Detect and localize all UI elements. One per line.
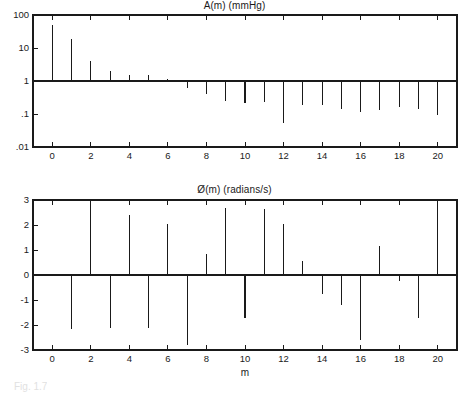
x-axis-tick-label: 10 [240, 353, 251, 364]
x-axis-tick-label: 18 [394, 353, 405, 364]
x-axis-tick-label: 20 [432, 353, 443, 364]
x-axis-tick-label: 16 [355, 353, 366, 364]
x-axis-tick-label: 0 [50, 150, 55, 161]
phase-plot-panel: Ø(m) (radians/s) 3210-1-2-30246810121416… [0, 182, 469, 393]
figure-caption: Fig. 1.7 [14, 381, 47, 393]
y-axis-tick-label: .1 [21, 108, 29, 119]
x-axis-tick-label: 8 [204, 150, 209, 161]
x-axis-tick-label: 0 [50, 353, 55, 364]
y-axis-tick-label: 1 [24, 244, 29, 255]
y-axis-tick-label: -3 [21, 344, 29, 355]
x-axis-tick-label: 4 [127, 150, 132, 161]
x-axis-tick-label: 6 [165, 353, 170, 364]
amplitude-plot-canvas: 100101.1.0102468101214161820 [0, 0, 469, 178]
y-axis-tick-label: -2 [21, 319, 29, 330]
y-axis-tick-label: -1 [21, 294, 29, 305]
y-axis-tick-label: 1 [24, 75, 29, 86]
phase-plot-canvas: 3210-1-2-302468101214161820m [0, 182, 469, 393]
y-axis-tick-label: 2 [24, 219, 29, 230]
x-axis-tick-label: 12 [278, 353, 289, 364]
x-axis-tick-label: 14 [317, 353, 328, 364]
x-axis-tick-label: 18 [394, 150, 405, 161]
y-axis-tick-label: 3 [24, 194, 29, 205]
x-axis-tick-label: 4 [127, 353, 132, 364]
x-axis-tick-label: 8 [204, 353, 209, 364]
x-axis-title: m [241, 367, 249, 378]
phase-plot-title: Ø(m) (radians/s) [0, 184, 469, 195]
amplitude-plot-panel: A(m) (mmHg) 100101.1.0102468101214161820 [0, 0, 469, 178]
x-axis-tick-label: 14 [317, 150, 328, 161]
x-axis-tick-label: 20 [432, 150, 443, 161]
x-axis-tick-label: 16 [355, 150, 366, 161]
amplitude-plot-title: A(m) (mmHg) [0, 0, 469, 11]
x-axis-tick-label: 6 [165, 150, 170, 161]
y-axis-tick-label: 100 [13, 9, 29, 20]
y-axis-tick-label: 0 [24, 269, 29, 280]
y-axis-tick-label: .01 [16, 141, 29, 152]
x-axis-tick-label: 10 [240, 150, 251, 161]
x-axis-tick-label: 12 [278, 150, 289, 161]
figure-stem-plots: A(m) (mmHg) 100101.1.0102468101214161820… [0, 0, 469, 393]
x-axis-tick-label: 2 [88, 353, 93, 364]
x-axis-tick-label: 2 [88, 150, 93, 161]
y-axis-tick-label: 10 [18, 42, 29, 53]
